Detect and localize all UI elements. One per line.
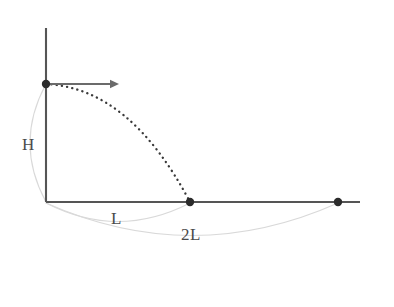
- range-2L-label: 2L: [181, 226, 201, 243]
- far-point: [334, 198, 342, 206]
- launch-point: [42, 80, 50, 88]
- height-label: H: [22, 136, 35, 153]
- range-L-label: L: [111, 210, 122, 227]
- diagram-canvas: [0, 0, 394, 307]
- projectile-diagram: H L 2L: [0, 0, 394, 307]
- initial-velocity-arrow: [49, 80, 119, 89]
- velocity-arrow-head: [110, 80, 119, 89]
- projectile-path: [46, 84, 190, 202]
- landing-point: [186, 198, 194, 206]
